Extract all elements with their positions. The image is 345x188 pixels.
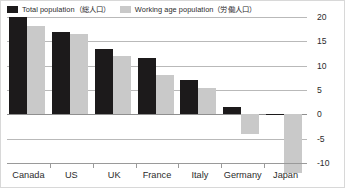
- legend-swatch-total-icon: [7, 6, 18, 13]
- bar-group: [178, 17, 221, 163]
- population-growth-bar-chart: Total population（総人口）Working age populat…: [0, 0, 345, 188]
- bar-total[interactable]: [223, 107, 241, 114]
- bar-group: [7, 17, 50, 163]
- bar-working[interactable]: [156, 75, 174, 114]
- bar-total[interactable]: [138, 58, 156, 114]
- y-axis-tick-label: -5: [317, 134, 325, 143]
- legend-entry-total[interactable]: Total population（総人口）: [7, 6, 110, 13]
- x-axis-tick: [93, 164, 94, 168]
- bar-working[interactable]: [113, 56, 131, 114]
- x-axis-label-us: US: [65, 171, 78, 180]
- plot-area: 20151050-5-10: [7, 17, 307, 163]
- bar-total[interactable]: [95, 49, 113, 115]
- y-axis-tick-label: -10: [317, 159, 329, 168]
- bar-group: [50, 17, 93, 163]
- y-axis-tick-label: 5: [317, 86, 322, 95]
- bar-total[interactable]: [52, 32, 70, 115]
- bar-working[interactable]: [241, 114, 259, 133]
- x-axis-tick: [221, 164, 222, 168]
- bar-working[interactable]: [27, 26, 45, 115]
- bar-total[interactable]: [266, 114, 284, 115]
- y-axis-tick-label: 10: [317, 61, 327, 70]
- bar-group: [93, 17, 136, 163]
- bar-group: [264, 17, 307, 163]
- y-axis-tick-label: 20: [317, 13, 327, 22]
- legend-label-total: Total population（総人口）: [22, 6, 110, 13]
- x-axis-label-france: France: [143, 171, 172, 180]
- x-axis-tick: [264, 164, 265, 168]
- y-axis-tick-label: 0: [317, 110, 322, 119]
- x-axis-label-uk: UK: [108, 171, 121, 180]
- x-axis-label-italy: Italy: [191, 171, 208, 180]
- bar-working[interactable]: [70, 34, 88, 114]
- x-axis-label-japan: Japan: [273, 171, 298, 180]
- bar-total[interactable]: [180, 80, 198, 114]
- y-axis-tick-label: 15: [317, 37, 327, 46]
- x-axis-tick: [136, 164, 137, 168]
- legend-entry-working[interactable]: Working age population（労働人口）: [120, 6, 256, 13]
- chart-legend: Total population（総人口）Working age populat…: [7, 3, 256, 16]
- bar-group: [136, 17, 179, 163]
- x-axis-label-canada: Canada: [12, 171, 44, 180]
- bar-working[interactable]: [198, 88, 216, 115]
- legend-label-working: Working age population（労働人口）: [135, 6, 256, 13]
- x-axis-line: [7, 163, 307, 164]
- bar-group: [221, 17, 264, 163]
- x-axis-label-germany: Germany: [224, 171, 262, 180]
- legend-swatch-working-icon: [120, 6, 131, 13]
- x-axis-tick: [178, 164, 179, 168]
- x-axis-tick: [50, 164, 51, 168]
- bar-total[interactable]: [9, 17, 27, 114]
